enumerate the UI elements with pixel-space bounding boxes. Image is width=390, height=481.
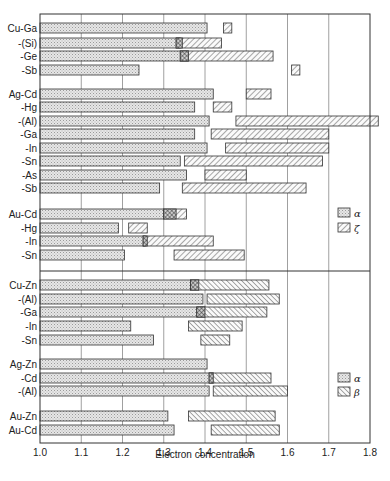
legend-swatch-alpha [338,373,350,382]
zeta-bar [292,65,300,75]
zeta-bar [205,170,246,180]
row-label: -Sn [21,250,37,261]
beta-bar [197,307,267,317]
beta-bar [213,386,287,396]
legend-label-beta: β [353,387,360,398]
alpha-bar [40,102,195,112]
alpha-bar [40,51,189,61]
x-tick-label: 1.7 [322,447,336,458]
zeta-bar [143,236,213,246]
row-label: -Hg [21,223,37,234]
row-label: Ag-Cd [9,89,37,100]
zeta-bar [213,102,232,112]
alpha-bar [40,294,203,304]
row-label: -As [22,170,37,181]
alpha-bar [40,335,153,345]
two-phase-bar [164,209,176,219]
row-label: -(Al) [18,294,37,305]
zeta-bar [174,250,244,260]
alpha-bar [40,183,160,193]
x-tick-label: 1.0 [33,447,47,458]
zeta-bar [129,223,148,233]
x-axis-title: Electron concentration [155,449,255,460]
row-label: -Ge [20,51,37,62]
legend-label-alpha: α [354,208,361,219]
zeta-bar [246,89,271,99]
x-tick-label: 1.6 [281,447,295,458]
alpha-bar [40,236,145,246]
row-label: Au-Zn [10,411,37,422]
row-label: -(Al) [18,116,37,127]
row-label: -Sb [21,183,37,194]
legend-swatch-zeta [338,223,350,232]
zeta-bar [224,23,232,33]
zeta-bar [176,38,221,48]
alpha-bar [40,156,180,166]
row-label: -Sn [21,156,37,167]
row-labels: Cu-Ga-(Si)-Ge-SbAg-Cd-Hg-(Al)-Ga-In-Sn-A… [8,23,38,436]
alpha-bar [40,321,131,331]
beta-bar [189,321,243,331]
alpha-bar [40,170,186,180]
bars [40,23,378,435]
two-phase-bar [209,373,213,383]
two-phase-bar [143,236,147,246]
row-label: -Cd [21,373,37,384]
row-label: Cu-Zn [9,280,37,291]
beta-bar [201,335,230,345]
zeta-bar [211,129,329,139]
legend-swatch-beta [338,387,350,396]
alpha-bar [40,38,180,48]
alpha-bar [40,65,139,75]
beta-bar [191,280,269,290]
two-phase-bar [176,38,182,48]
row-label: -In [25,236,37,247]
beta-bar [189,411,276,421]
row-label: Cu-Ga [8,23,38,34]
row-label: Ag-Zn [10,359,37,370]
alpha-bar [40,223,118,233]
two-phase-bar [197,307,205,317]
alpha-bar [40,386,209,396]
alpha-bar [40,411,168,421]
row-label: -Sb [21,65,37,76]
row-label: -Sn [21,335,37,346]
alpha-bar [40,425,174,435]
alpha-bar [40,129,195,139]
row-label: -Ga [20,307,37,318]
zeta-bar [236,116,378,126]
row-label: -(Al) [18,386,37,397]
beta-bar [211,425,279,435]
alpha-bar [40,143,207,153]
zeta-bar [184,156,322,166]
zeta-bar [226,143,329,153]
row-label: -In [25,143,37,154]
two-phase-bar [180,51,188,61]
alpha-bar [40,209,164,219]
row-label: -Hg [21,102,37,113]
row-label: Au-Cd [9,425,37,436]
row-label: -In [25,321,37,332]
alpha-bar [40,23,207,33]
two-phase-bar [191,280,199,290]
row-label: Au-Cd [9,209,37,220]
beta-bar [207,294,279,304]
legend-swatch-alpha [338,208,350,217]
x-tick-label: 1.1 [74,447,88,458]
x-tick-label: 1.2 [116,447,130,458]
alpha-bar [40,116,209,126]
x-tick-label: 1.8 [363,447,377,458]
row-label: -(Si) [18,38,37,49]
alpha-bar [40,89,213,99]
legends: αζαβ [338,208,361,398]
beta-bar [209,373,271,383]
alpha-bar [40,280,199,290]
legend-label-alpha: α [354,373,361,384]
alpha-bar [40,359,207,369]
zeta-bar [180,51,273,61]
zeta-bar [182,183,306,193]
alpha-bar [40,373,213,383]
phase-range-chart: Cu-Ga-(Si)-Ge-SbAg-Cd-Hg-(Al)-Ga-In-Sn-A… [0,0,390,481]
legend-label-zeta: ζ [354,223,360,234]
alpha-bar [40,307,205,317]
